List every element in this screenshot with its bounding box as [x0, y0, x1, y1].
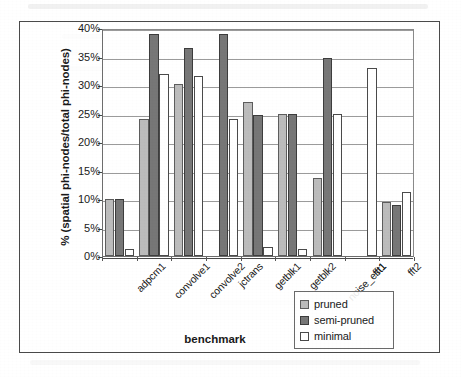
x-label-getblk1: getblk1 — [272, 260, 303, 291]
bar-getblk1-semi-pruned — [253, 115, 263, 256]
bar-adpcm1-pruned — [105, 199, 115, 256]
bar-convolve1-pruned — [139, 119, 149, 256]
y-tick-label: 40% — [66, 23, 100, 34]
legend-swatch-semi-pruned — [300, 316, 309, 325]
bar-jctrans-minimal — [229, 119, 239, 256]
bar-fft2-pruned — [382, 202, 392, 256]
legend-label-semi-pruned: semi-pruned — [314, 315, 374, 326]
bar-adpcm1-minimal — [125, 249, 135, 256]
legend-swatch-pruned — [300, 300, 309, 309]
bar-fft2-semi-pruned — [392, 205, 402, 256]
y-tick-label: 5% — [66, 223, 100, 234]
bar-getblk1-pruned — [243, 102, 253, 256]
bar-getblk1-minimal — [263, 247, 273, 256]
bar-convolve2-semi-pruned — [184, 48, 194, 256]
bar-adpcm1-semi-pruned — [115, 199, 125, 256]
bar-jctrans-semi-pruned — [219, 34, 229, 256]
bar-fft1-minimal — [367, 68, 377, 256]
x-label-convolve1: convolve1 — [171, 260, 212, 301]
y-tick-label: 15% — [66, 166, 100, 177]
y-tick-label: 20% — [66, 137, 100, 148]
bar-convolve1-minimal — [159, 74, 169, 256]
legend-label-pruned: pruned — [314, 299, 348, 310]
chart-legend: prunedsemi-prunedminimal — [294, 291, 394, 349]
x-label-getblk2: getblk2 — [306, 260, 337, 291]
bar-fft2-minimal — [402, 192, 412, 256]
y-tick-label: 10% — [66, 194, 100, 205]
bar-noise_est1-semi-pruned — [323, 58, 333, 256]
bar-convolve1-semi-pruned — [149, 34, 159, 256]
y-tick-label: 25% — [66, 109, 100, 120]
bar-convolve2-minimal — [194, 76, 204, 256]
legend-label-minimal: minimal — [314, 331, 351, 342]
y-tick-label: 35% — [66, 52, 100, 63]
y-tick-label: 0% — [66, 251, 100, 262]
bars-layer — [103, 30, 413, 256]
legend-swatch-minimal — [300, 332, 309, 341]
chart-figure-frame: % (spatial phi-nodes/total phi-nodes) 0%… — [19, 21, 440, 353]
bar-convolve2-pruned — [174, 84, 184, 256]
x-label-fft2: fft2 — [405, 260, 423, 278]
x-label-adpcm1: adpcm1 — [134, 260, 168, 294]
plot-area — [102, 29, 414, 257]
bar-getblk2-semi-pruned — [288, 114, 298, 257]
bar-noise_est1-pruned — [313, 178, 323, 256]
legend-item-semi-pruned: semi-pruned — [300, 312, 388, 328]
legend-item-minimal: minimal — [300, 328, 388, 344]
bar-getblk2-minimal — [298, 249, 308, 256]
y-tick-label: 30% — [66, 80, 100, 91]
bar-getblk2-pruned — [278, 114, 288, 257]
x-axis-title: benchmark — [140, 333, 290, 345]
y-axis-tick-labels: 0%5%10%15%20%25%30%35%40% — [60, 29, 100, 257]
bar-noise_est1-minimal — [333, 114, 343, 257]
legend-item-pruned: pruned — [300, 296, 388, 312]
